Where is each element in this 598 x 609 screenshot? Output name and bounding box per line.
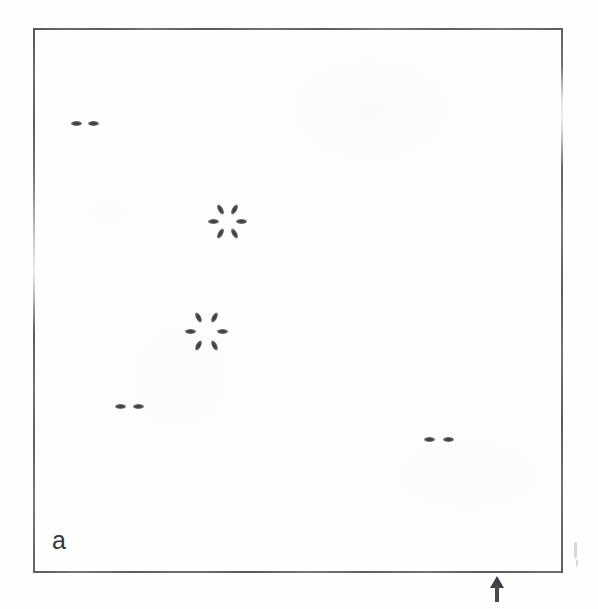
diffraction-spot: [424, 437, 435, 442]
diffraction-spot: [229, 203, 239, 215]
diffraction-spot: [236, 219, 247, 224]
diffraction-spot: [115, 404, 126, 409]
diffraction-spot: [229, 227, 239, 239]
diffraction-spot: [88, 121, 99, 126]
diffraction-spot: [193, 311, 203, 323]
arrow-shaft: [495, 585, 499, 602]
diffraction-spot: [215, 203, 225, 215]
diffraction-spot: [208, 219, 219, 224]
frame-border-top: [33, 28, 563, 30]
frame-border-bottom: [33, 571, 563, 573]
scan-fleck: [576, 560, 578, 566]
scan-noise-overlay: [0, 0, 598, 609]
diffraction-spot: [133, 404, 144, 409]
diffraction-spot: [209, 339, 219, 351]
diffraction-spot: [443, 437, 454, 442]
frame-border-left: [33, 28, 35, 573]
panel-label: a: [52, 528, 66, 553]
scan-fleck: [574, 542, 577, 558]
frame-border-right: [561, 28, 563, 573]
diffraction-spot: [215, 227, 225, 239]
diffraction-spot: [71, 121, 82, 126]
diffraction-spot: [193, 339, 203, 351]
figure-panel-a: a: [0, 0, 598, 609]
diffraction-spot: [185, 329, 196, 334]
diffraction-spot: [209, 311, 219, 323]
up-arrow-icon: [489, 576, 505, 602]
diffraction-spot: [217, 329, 228, 334]
